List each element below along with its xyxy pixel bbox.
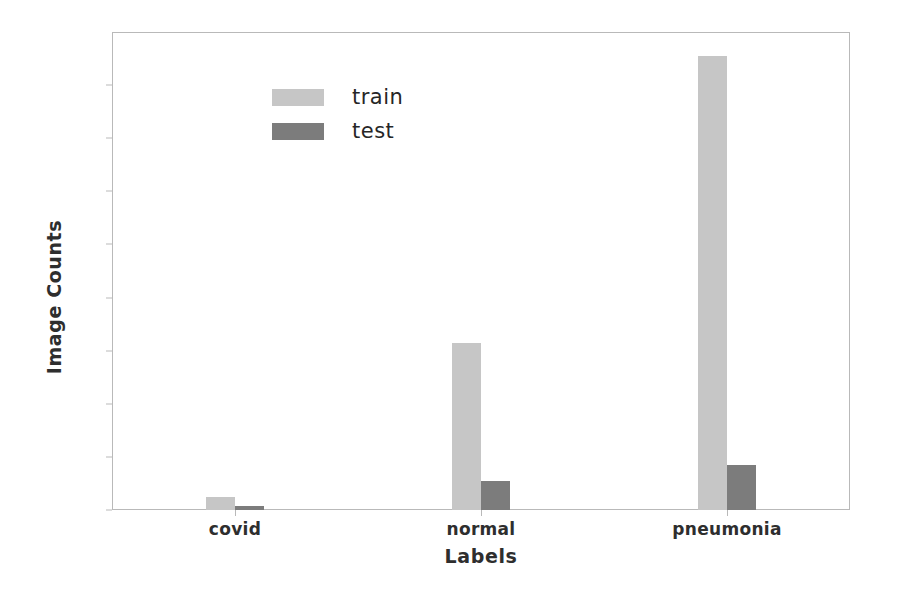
- x-tick-mark: [481, 510, 482, 516]
- bar-covid-test: [235, 506, 264, 510]
- x-tick-mark: [235, 510, 236, 516]
- bar-covid-train: [206, 497, 235, 510]
- bar-normal-train: [452, 343, 481, 510]
- y-tick-mark: [106, 403, 112, 404]
- chart-legend: train test: [272, 80, 403, 148]
- x-tick-mark: [727, 510, 728, 516]
- x-tick-label-pneumonia: pneumonia: [672, 519, 781, 539]
- legend-item-train[interactable]: train: [272, 80, 403, 114]
- legend-label-train: train: [352, 85, 403, 109]
- y-tick-mark: [106, 85, 112, 86]
- y-tick-mark: [106, 350, 112, 351]
- y-tick-mark: [106, 191, 112, 192]
- x-axis-title: Labels: [112, 545, 850, 567]
- legend-swatch-test: [272, 123, 324, 140]
- plot-area: [112, 32, 850, 510]
- bar-pneumonia-train: [698, 56, 727, 510]
- x-tick-label-covid: covid: [209, 519, 261, 539]
- y-tick-mark: [106, 297, 112, 298]
- bar-pneumonia-test: [727, 465, 756, 510]
- y-tick-mark: [106, 456, 112, 457]
- bar-normal-test: [481, 481, 510, 510]
- bar-chart-figure: Image Counts 050010001500200025003000350…: [0, 0, 904, 594]
- legend-label-test: test: [352, 119, 394, 143]
- y-axis-title: Image Counts: [43, 167, 65, 427]
- y-axis: Image Counts 050010001500200025003000350…: [0, 0, 112, 594]
- legend-item-test[interactable]: test: [272, 114, 403, 148]
- legend-swatch-train: [272, 89, 324, 106]
- y-tick-mark: [106, 510, 112, 511]
- x-tick-label-normal: normal: [447, 519, 516, 539]
- y-tick-mark: [106, 138, 112, 139]
- y-tick-mark: [106, 244, 112, 245]
